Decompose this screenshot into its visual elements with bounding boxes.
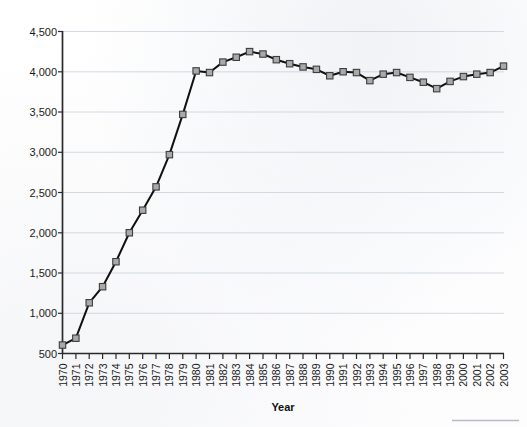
data-point-marker bbox=[474, 71, 480, 77]
x-axis-tick-label: 1980 bbox=[190, 363, 202, 387]
data-point-marker bbox=[166, 151, 172, 157]
x-axis-tick-label: 1974 bbox=[110, 363, 122, 387]
data-point-marker bbox=[59, 342, 65, 348]
x-axis-tick-label: 1975 bbox=[123, 363, 135, 387]
data-point-marker bbox=[407, 74, 413, 80]
y-axis-tick-label: 4,500 bbox=[29, 26, 57, 38]
y-axis-tick-label: 2,000 bbox=[29, 227, 57, 239]
x-axis-tick-label: 1999 bbox=[444, 363, 456, 387]
gridlines-group bbox=[63, 32, 505, 314]
data-point-marker bbox=[113, 259, 119, 265]
data-point-marker bbox=[86, 300, 92, 306]
data-point-marker bbox=[340, 69, 346, 75]
x-axis-tick-label: 1970 bbox=[57, 363, 69, 387]
data-point-marker bbox=[487, 69, 493, 75]
y-axis-tick-label: 4,000 bbox=[29, 66, 57, 78]
data-point-marker bbox=[286, 61, 292, 67]
data-point-markers bbox=[59, 48, 506, 348]
data-point-marker bbox=[327, 73, 333, 79]
y-axis-tick-label: 500 bbox=[39, 348, 57, 360]
data-point-marker bbox=[300, 64, 306, 70]
data-point-marker bbox=[393, 69, 399, 75]
x-axis-tick-label: 1976 bbox=[137, 363, 149, 387]
y-axis-tick-labels: 5001,0001,5002,0002,5003,0003,5004,0004,… bbox=[29, 26, 57, 360]
data-point-marker bbox=[447, 78, 453, 84]
x-axis-tick-label: 1993 bbox=[364, 363, 376, 387]
y-axis-tick-label: 3,000 bbox=[29, 146, 57, 158]
x-axis-tick-label: 1986 bbox=[270, 363, 282, 387]
x-axis-tick-label: 1972 bbox=[83, 363, 95, 387]
x-axis-tick-label: 1991 bbox=[337, 363, 349, 387]
data-point-marker bbox=[500, 63, 506, 69]
data-point-marker bbox=[139, 207, 145, 213]
x-axis-tick-label: 1985 bbox=[257, 363, 269, 387]
data-point-marker bbox=[233, 54, 239, 60]
data-point-marker bbox=[126, 230, 132, 236]
data-point-marker bbox=[153, 184, 159, 190]
x-axis-tick-label: 1978 bbox=[163, 363, 175, 387]
data-point-marker bbox=[246, 48, 252, 54]
x-axis-tick-label: 1988 bbox=[297, 363, 309, 387]
data-point-marker bbox=[433, 85, 439, 91]
data-point-marker bbox=[260, 51, 266, 57]
data-point-marker bbox=[367, 77, 373, 83]
x-axis-tick-label: 1998 bbox=[431, 363, 443, 387]
x-axis-tick-label: 1977 bbox=[150, 363, 162, 387]
data-line-series-1 bbox=[63, 52, 504, 345]
data-point-marker bbox=[460, 73, 466, 79]
data-point-marker bbox=[380, 71, 386, 77]
x-axis-tick-label: 2000 bbox=[457, 363, 469, 387]
x-axis-tick-label: 1984 bbox=[244, 363, 256, 387]
y-axis-tick-label: 1,000 bbox=[29, 307, 57, 319]
x-axis-title: Year bbox=[271, 401, 295, 413]
data-point-marker bbox=[99, 283, 105, 289]
data-point-marker bbox=[193, 68, 199, 74]
data-point-marker bbox=[313, 66, 319, 72]
x-axis-tick-label: 1981 bbox=[204, 363, 216, 387]
data-point-marker bbox=[420, 79, 426, 85]
x-axis-tick-label: 1995 bbox=[391, 363, 403, 387]
data-point-marker bbox=[206, 69, 212, 75]
data-point-marker bbox=[73, 335, 79, 341]
data-point-marker bbox=[353, 69, 359, 75]
x-axis-tick-label: 1990 bbox=[324, 363, 336, 387]
x-axis-tick-labels: 1970197119721973197419751976197719781979… bbox=[57, 363, 510, 387]
x-axis-tick-label: 1982 bbox=[217, 363, 229, 387]
x-axis-tick-label: 1987 bbox=[284, 363, 296, 387]
x-axis-tick-label: 2003 bbox=[498, 363, 510, 387]
x-axis-tick-label: 1973 bbox=[97, 363, 109, 387]
x-axis-tick-label: 1971 bbox=[70, 363, 82, 387]
x-axis-tick-label: 2002 bbox=[484, 363, 496, 387]
x-axis-tick-label: 1979 bbox=[177, 363, 189, 387]
x-axis-tick-label: 2001 bbox=[471, 363, 483, 387]
x-axis-tick-label: 1996 bbox=[404, 363, 416, 387]
x-axis-tick-label: 1983 bbox=[230, 363, 242, 387]
data-point-marker bbox=[180, 111, 186, 117]
x-axis-tick-label: 1997 bbox=[417, 363, 429, 387]
chart-page: 5001,0001,5002,0002,5003,0003,5004,0004,… bbox=[0, 0, 527, 427]
y-axis-tick-label: 2,500 bbox=[29, 187, 57, 199]
data-point-marker bbox=[273, 56, 279, 62]
y-axis-tick-label: 1,500 bbox=[29, 267, 57, 279]
x-axis-tick-label: 1994 bbox=[377, 363, 389, 387]
x-axis-tick-label: 1992 bbox=[351, 363, 363, 387]
y-axis-tick-label: 3,500 bbox=[29, 106, 57, 118]
x-axis-tick-label: 1989 bbox=[310, 363, 322, 387]
line-chart: 5001,0001,5002,0002,5003,0003,5004,0004,… bbox=[0, 0, 527, 427]
data-point-marker bbox=[220, 59, 226, 65]
